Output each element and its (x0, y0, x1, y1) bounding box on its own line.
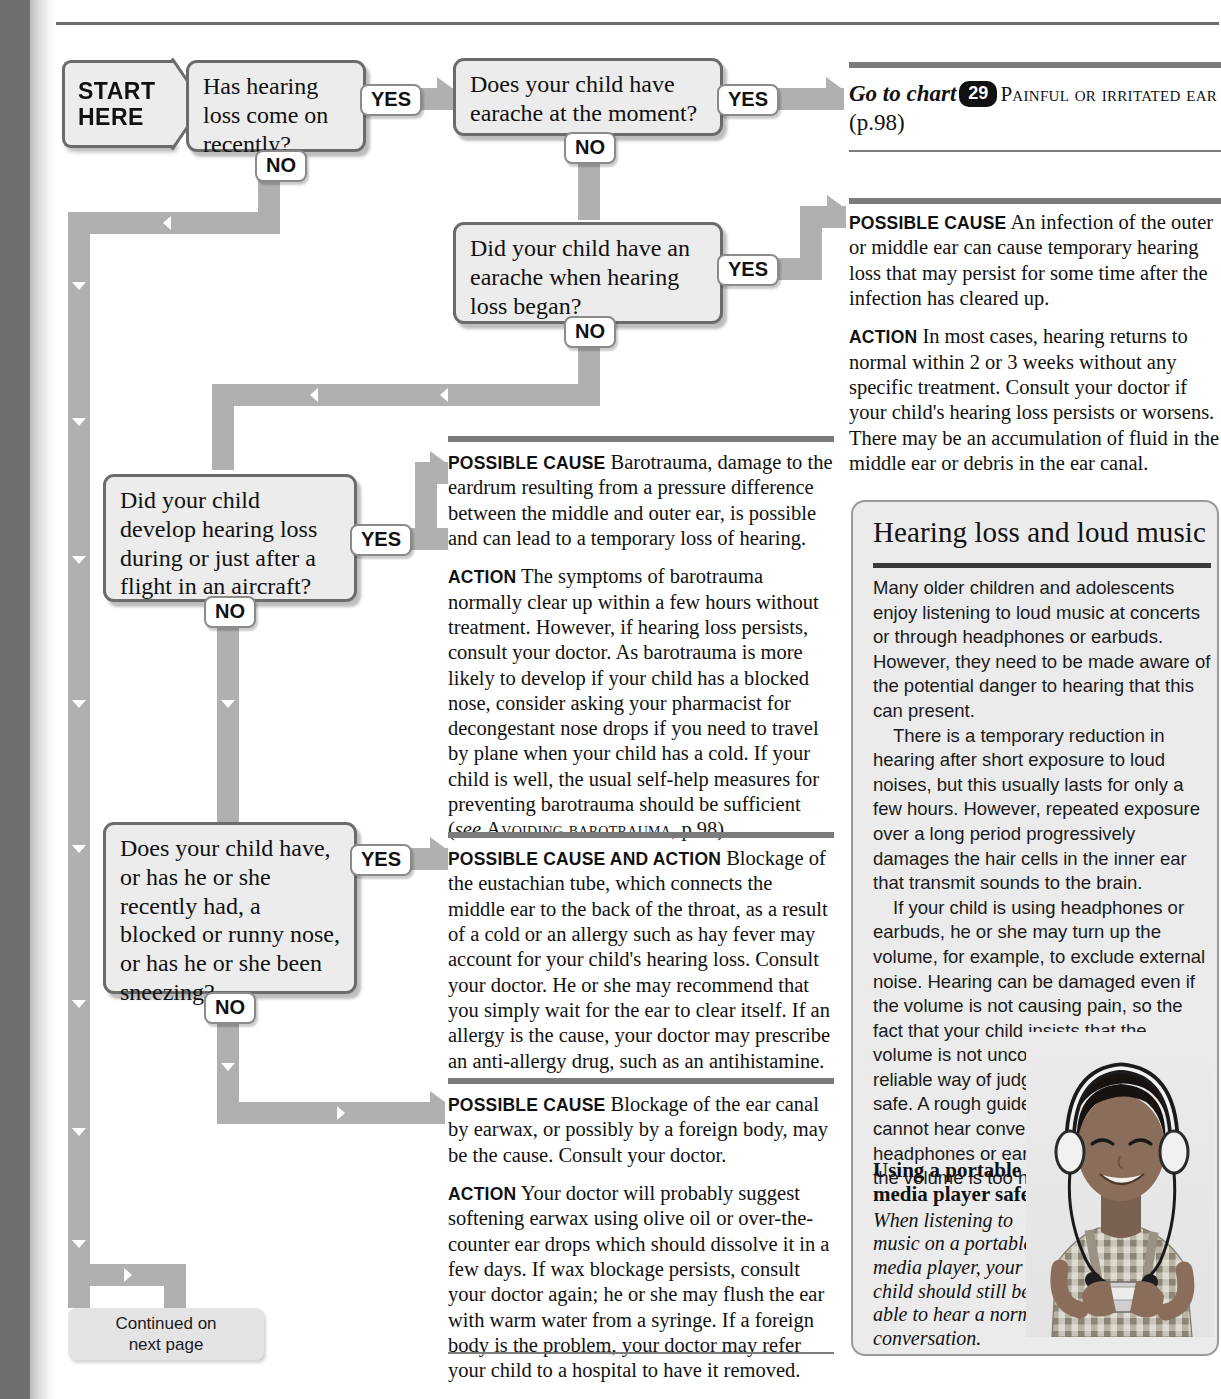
badge-label: YES (361, 848, 401, 870)
badge-label: NO (215, 996, 245, 1018)
question-box-earache-now[interactable]: Does your child have earache at the mome… (453, 58, 723, 136)
rule-goto-chart-top (849, 62, 1221, 68)
badge-label: NO (575, 320, 605, 342)
question-text: Did your child have an earache when hear… (470, 235, 690, 319)
badge-label: NO (266, 154, 296, 176)
badge-no-q4[interactable]: NO (204, 596, 256, 628)
photo-girl-with-headphones (1026, 1032, 1214, 1337)
rule-advice-earwax-bottom (448, 1352, 834, 1354)
advice-lead: Action (448, 1184, 516, 1204)
badge-yes-q3[interactable]: YES (717, 254, 779, 286)
sidebar-title-rule (873, 563, 1211, 568)
advice-block-possible-cause: Possible cause An infection of the outer… (849, 210, 1221, 311)
sidebar-title: Hearing loss and loud music (873, 516, 1213, 549)
badge-no-q3[interactable]: NO (564, 316, 616, 348)
sidebar-paragraph: Many older children and adolescents enjo… (873, 576, 1211, 724)
advice-text: The symptoms of barotrauma normally clea… (448, 565, 819, 815)
question-text: Does your child have, or has he or she r… (120, 835, 340, 1005)
advice-lead: Possible cause (849, 213, 1006, 233)
sidebar-paragraph: There is a temporary reduction in hearin… (873, 724, 1211, 896)
start-line-2: HERE (78, 104, 174, 130)
top-horizontal-rule (56, 22, 1219, 25)
goto-chart-prefix: Go to chart (849, 81, 956, 106)
advice-block-action: Action The symptoms of barotrauma normal… (448, 564, 834, 842)
advice-text: In most cases, hearing returns to normal… (849, 325, 1219, 474)
badge-label: NO (575, 136, 605, 158)
start-here-marker: START HERE (62, 60, 174, 148)
badge-no-q5[interactable]: NO (204, 992, 256, 1024)
page-gutter-shading (30, 0, 56, 1399)
advice-lead: Action (849, 327, 917, 347)
advice-earwax-blockage: Possible cause Blockage of the ear canal… (448, 1092, 834, 1383)
advice-text: Blockage of the eustachian tube, which c… (448, 847, 830, 1072)
advice-block-action: Action In most cases, hearing returns to… (849, 324, 1221, 476)
advice-lead: Action (448, 567, 516, 587)
badge-no-q1[interactable]: NO (255, 150, 307, 182)
goto-chart-reference[interactable]: Go to chart29Painful or irritated ear (p… (849, 80, 1221, 138)
question-box-aircraft-flight[interactable]: Did your child develop hearing loss duri… (103, 474, 357, 602)
advice-ear-infection: Possible cause An infection of the outer… (849, 210, 1221, 476)
continued-line-2: next page (129, 1334, 204, 1355)
question-text: Does your child have earache at the mome… (470, 71, 697, 126)
badge-yes-q2[interactable]: YES (717, 84, 779, 116)
question-box-earache-at-onset[interactable]: Did your child have an earache when hear… (453, 222, 723, 324)
rule-advice-ear-infection (849, 198, 1221, 204)
badge-label: NO (215, 600, 245, 622)
badge-no-q2[interactable]: NO (564, 132, 616, 164)
advice-block-possible-cause-and-action: Possible cause and action Blockage of th… (448, 846, 834, 1074)
advice-lead: Possible cause and action (448, 849, 721, 869)
badge-yes-q5[interactable]: YES (350, 844, 412, 876)
rule-goto-chart-bottom (849, 150, 1221, 152)
rule-advice-barotrauma (448, 436, 834, 442)
advice-block-possible-cause: Possible cause Blockage of the ear canal… (448, 1092, 834, 1168)
continued-line-1: Continued on (115, 1313, 216, 1334)
badge-yes-q1[interactable]: YES (360, 84, 422, 116)
badge-label: YES (728, 88, 768, 110)
continued-next-page-box[interactable]: Continued on next page (68, 1308, 264, 1360)
question-text: Did your child develop hearing loss duri… (120, 487, 317, 599)
advice-eustachian-tube: Possible cause and action Blockage of th… (448, 846, 834, 1074)
advice-barotrauma: Possible cause Barotrauma, damage to the… (448, 450, 834, 843)
chart-number-badge: 29 (959, 81, 997, 107)
question-box-hearing-loss-recent[interactable]: Has hearing loss come on recently? (186, 60, 366, 152)
question-text: Has hearing loss come on recently? (203, 73, 328, 157)
page-spine (0, 0, 30, 1399)
badge-yes-q4[interactable]: YES (350, 524, 412, 556)
advice-lead: Possible cause (448, 1095, 605, 1115)
question-box-blocked-runny-nose[interactable]: Does your child have, or has he or she r… (103, 822, 357, 994)
badge-label: YES (728, 258, 768, 280)
badge-label: YES (371, 88, 411, 110)
start-line-1: START (78, 78, 174, 104)
rule-advice-eustachian (448, 832, 834, 838)
advice-lead: Possible cause (448, 453, 605, 473)
badge-label: YES (361, 528, 401, 550)
goto-chart-page: (p.98) (849, 110, 905, 135)
rule-advice-earwax (448, 1078, 834, 1084)
advice-block-possible-cause: Possible cause Barotrauma, damage to the… (448, 450, 834, 551)
goto-chart-title: Painful or irritated ear (1000, 82, 1217, 106)
